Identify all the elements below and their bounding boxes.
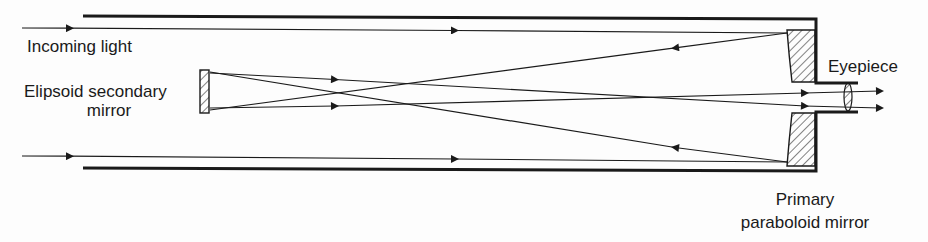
diagram-canvas: Incoming light Elipsoid secondary mirror…	[0, 0, 928, 242]
primary-mirror	[787, 30, 815, 166]
label-primary-mirror-line1: Primary	[776, 190, 835, 209]
label-secondary-mirror-line2: mirror	[87, 101, 132, 120]
label-incoming-light: Incoming light	[27, 37, 132, 56]
label-secondary-mirror-line1: Elipsoid secondary	[24, 82, 167, 101]
secondary-mirror	[200, 70, 209, 113]
label-eyepiece: Eyepiece	[828, 57, 898, 76]
telescope-diagram: Incoming light Elipsoid secondary mirror…	[0, 0, 928, 242]
label-primary-mirror-line2: paraboloid mirror	[741, 213, 870, 232]
